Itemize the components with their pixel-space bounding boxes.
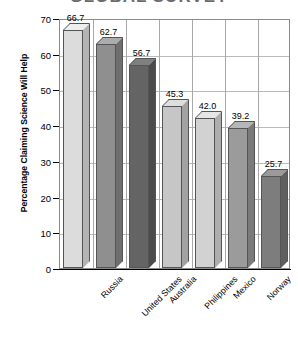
bar-value-label: 45.3	[157, 89, 192, 99]
x-category-label: Norway	[265, 274, 293, 302]
bar-side-face	[248, 121, 255, 268]
bar-russia[interactable]	[63, 23, 90, 268]
bar-value-label: 56.7	[124, 48, 159, 58]
y-tick-label: 60	[19, 49, 51, 60]
bar-front-face	[129, 65, 149, 268]
bar-united-states[interactable]	[96, 37, 123, 268]
y-tick-label: 20	[19, 192, 51, 203]
gridline-vertical	[159, 20, 160, 268]
y-tick-mark	[53, 269, 59, 270]
y-tick-label: 70	[19, 14, 51, 25]
gridline-vertical	[258, 20, 259, 268]
x-axis-line	[59, 269, 291, 270]
bar-front-face	[228, 128, 248, 268]
y-tick-label: 10	[19, 228, 51, 239]
bar-value-label: 62.7	[91, 27, 126, 37]
y-tick-label: 30	[19, 156, 51, 167]
bar-front-face	[96, 44, 116, 268]
y-tick-mark	[53, 198, 59, 199]
x-category-label: Japan	[296, 274, 298, 298]
bar-side-face	[281, 169, 288, 268]
bar-japan[interactable]	[261, 169, 288, 268]
y-tick-mark	[53, 233, 59, 234]
bar-side-face	[149, 58, 156, 268]
plot-area	[59, 19, 290, 269]
bar-front-face	[261, 176, 281, 268]
y-tick-mark	[53, 55, 59, 56]
bar-value-label: 66.7	[58, 13, 93, 23]
y-tick-mark	[53, 90, 59, 91]
bar-side-face	[116, 37, 123, 268]
bar-value-label: 39.2	[223, 111, 258, 121]
bar-mexico[interactable]	[195, 111, 222, 268]
chart-figure: GLOBAL SURVEY Percentage Claiming Scienc…	[0, 0, 298, 341]
bar-value-label: 25.7	[256, 159, 291, 169]
y-tick-label: 40	[19, 121, 51, 132]
bar-side-face	[83, 23, 90, 268]
bar-australia[interactable]	[129, 58, 156, 268]
y-tick-label: 50	[19, 85, 51, 96]
bar-norway[interactable]	[228, 121, 255, 268]
bar-front-face	[195, 118, 215, 268]
bar-front-face	[63, 30, 83, 268]
bar-side-face	[215, 111, 222, 268]
chart-title: GLOBAL SURVEY	[0, 0, 298, 7]
bar-value-label: 42.0	[190, 101, 225, 111]
y-tick-mark	[53, 126, 59, 127]
gridline-horizontal	[60, 56, 289, 57]
gridline-vertical	[192, 20, 193, 268]
gridline-vertical	[225, 20, 226, 268]
bar-philippines[interactable]	[162, 99, 189, 268]
y-tick-mark	[53, 162, 59, 163]
x-category-label: Russia	[99, 274, 125, 300]
bar-side-face	[182, 99, 189, 268]
gridline-vertical	[93, 20, 94, 268]
y-tick-label: 0	[19, 264, 51, 275]
bar-front-face	[162, 106, 182, 268]
